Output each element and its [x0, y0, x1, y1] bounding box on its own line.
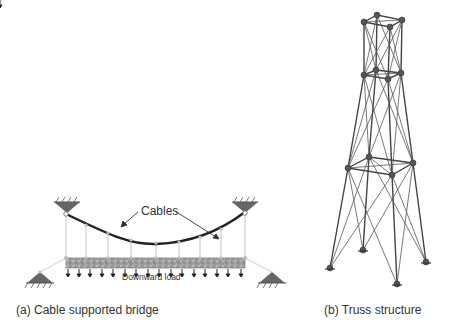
truss-tower [325, 12, 431, 287]
hangers [66, 214, 245, 258]
cables-label: Cables [141, 204, 178, 218]
caption-a: (a) Cable supported bridge [16, 303, 159, 317]
bottom-support-left [25, 270, 54, 288]
cable-bridge [0, 0, 286, 288]
load-arrows [0, 0, 243, 277]
truss-nodes [327, 12, 429, 287]
caption-b: (b) Truss structure [324, 303, 421, 317]
diagram-canvas [0, 0, 451, 330]
top-support-left [54, 197, 80, 216]
bottom-support-right [257, 272, 286, 288]
top-support-right [232, 197, 258, 215]
downward-load-label: Downward load [122, 272, 181, 282]
